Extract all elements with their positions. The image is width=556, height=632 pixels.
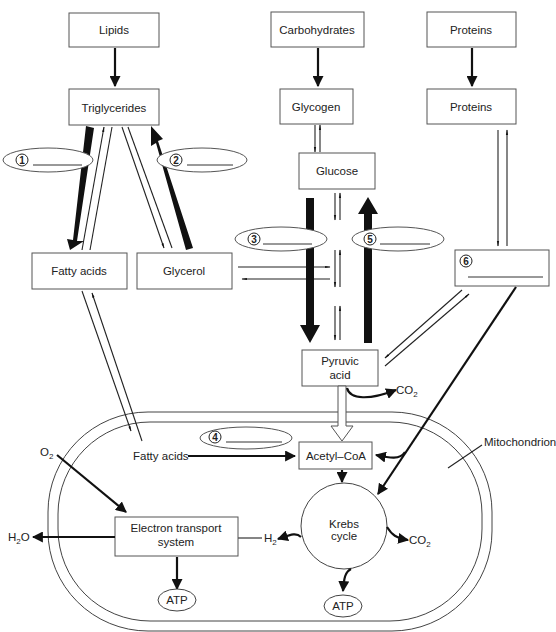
svg-text:Glucose: Glucose (316, 165, 358, 177)
mitochondrion-leader-line (448, 445, 482, 468)
svg-text:Krebs: Krebs (329, 518, 359, 530)
arrow-pyruvic-co2 (347, 388, 396, 397)
box-pyruvic-acid: Pyruvic acid (302, 350, 378, 386)
blank-box-6[interactable]: 6 (455, 250, 549, 286)
svg-text:5: 5 (367, 234, 373, 245)
mitochondrion-label: Mitochondrion (484, 436, 556, 448)
svg-text:Lipids: Lipids (99, 24, 129, 36)
metabolism-diagram: Mitochondrion Lipids Carbohydrates Prote… (0, 0, 556, 632)
svg-text:3: 3 (251, 234, 257, 245)
svg-text:4: 4 (212, 432, 218, 443)
svg-text:Glycerol: Glycerol (163, 265, 205, 277)
box-lipids: Lipids (69, 13, 159, 47)
arrow-krebs-h2 (278, 534, 301, 539)
o2-label: O2 (40, 446, 54, 461)
svg-text:system: system (158, 536, 194, 548)
box-fatty-acids: Fatty acids (32, 253, 127, 289)
box-glucose: Glucose (299, 153, 375, 189)
box-glycerol: Glycerol (137, 253, 232, 289)
svg-text:Acetyl–CoA: Acetyl–CoA (306, 450, 366, 462)
atp-ets: ATP (158, 589, 196, 611)
svg-text:ATP: ATP (332, 600, 354, 612)
arrow-5-pyruvic-to-glucose (358, 197, 378, 343)
arrow-triglycerides-to-glycerol-b (128, 127, 172, 248)
arrow-3-glucose-to-pyruvic (300, 198, 320, 343)
krebs-cycle: Krebs cycle (301, 483, 387, 569)
blank-oval-1[interactable]: 1 (3, 148, 93, 172)
box-electron-transport-system: Electron transport system (115, 517, 238, 556)
svg-text:Proteins: Proteins (450, 24, 492, 36)
svg-text:2: 2 (173, 155, 179, 166)
svg-text:cycle: cycle (331, 530, 357, 542)
arrow-fatty-acids-out-of-mitochondrion (92, 293, 142, 441)
svg-text:Carbohydrates: Carbohydrates (279, 24, 355, 36)
arrow-2-glycerol-to-triglycerides (151, 126, 193, 250)
mito-fatty-acids-label: Fatty acids (133, 450, 189, 462)
blank-oval-2[interactable]: 2 (157, 148, 247, 172)
svg-text:Pyruvic: Pyruvic (321, 355, 359, 367)
svg-text:1: 1 (19, 155, 25, 166)
arrow-krebs-atp (343, 569, 351, 591)
svg-text:ATP: ATP (166, 594, 188, 606)
arrow-amino-to-pyruvic (385, 290, 462, 358)
arrow-1-triglycerides-to-fatty-acids (67, 126, 94, 250)
svg-text:Proteins: Proteins (450, 101, 492, 113)
co2-pyruvic-label: CO2 (396, 384, 418, 399)
glycolysis-reversible-arrows (335, 193, 340, 340)
box-glycogen: Glycogen (280, 89, 353, 124)
svg-text:Fatty acids: Fatty acids (51, 265, 107, 277)
box-acetyl-coa: Acetyl–CoA (299, 442, 372, 469)
svg-text:Glycogen: Glycogen (292, 101, 341, 113)
svg-text:Triglycerides: Triglycerides (82, 102, 147, 114)
blank-oval-5[interactable]: 5 (352, 227, 444, 251)
atp-krebs: ATP (324, 595, 362, 617)
co2-krebs-label: CO2 (409, 534, 431, 549)
svg-text:Electron transport: Electron transport (131, 522, 223, 534)
h2o-label: H2O (8, 531, 30, 546)
arrow-o2-to-ets (57, 455, 126, 512)
arrow-krebs-co2 (387, 527, 408, 540)
box-proteins-storage: Proteins (427, 89, 516, 124)
arrow-fatty-acids-into-mitochondrion (82, 291, 131, 431)
arrow-pyruvic-to-amino (385, 294, 469, 366)
svg-text:6: 6 (463, 256, 469, 267)
blank-oval-4[interactable]: 4 (200, 427, 292, 449)
arrow-amino-to-acetyl-coa (376, 452, 405, 458)
box-triglycerides: Triglycerides (69, 89, 159, 125)
box-carbohydrates: Carbohydrates (271, 12, 364, 47)
svg-text:acid: acid (329, 369, 350, 381)
box-proteins-source: Proteins (427, 12, 516, 47)
blank-oval-3[interactable]: 3 (235, 227, 327, 251)
h2-label: H2 (264, 532, 277, 547)
